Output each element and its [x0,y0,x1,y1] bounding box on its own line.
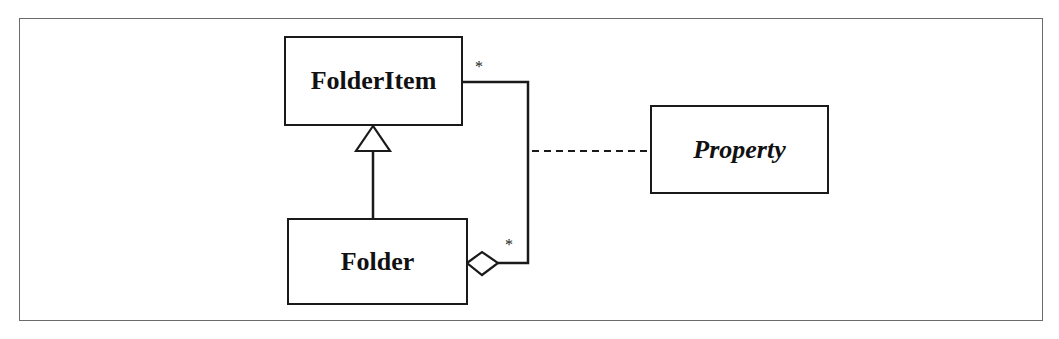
generalization-triangle-icon [356,126,390,151]
multiplicity-folderitem-end: * [475,58,483,76]
class-folder: Folder [287,218,468,305]
aggregation-diamond-icon [467,252,498,275]
connectors [0,0,1059,339]
class-property: Property [650,105,829,194]
class-property-label: Property [693,135,785,165]
aggregation-line [462,82,528,263]
class-folder-label: Folder [341,247,415,277]
class-folderitem-label: FolderItem [311,66,437,96]
multiplicity-folder-end: * [505,236,513,254]
class-folderitem: FolderItem [284,36,463,126]
diagram-canvas: FolderItem Folder Property * * [0,0,1059,339]
